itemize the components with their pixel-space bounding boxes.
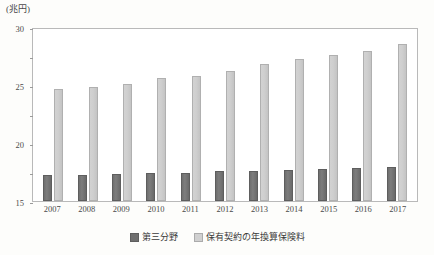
bar-group [173, 29, 207, 201]
x-axis-label: 2008 [70, 204, 105, 215]
x-axis-label: 2012 [208, 204, 243, 215]
bar[interactable] [387, 167, 396, 201]
bar[interactable] [89, 87, 98, 201]
bar-group [105, 29, 139, 201]
bar-group [380, 29, 414, 201]
bar-group [70, 29, 104, 201]
bar[interactable] [215, 171, 224, 201]
bar-group [36, 29, 70, 201]
bar[interactable] [112, 174, 121, 201]
bar[interactable] [157, 78, 166, 201]
y-axis-unit-label: (兆円) [6, 4, 30, 15]
bar[interactable] [192, 76, 201, 201]
chart-legend: 第三分野保有契約の年換算保険料 [0, 232, 434, 243]
bar[interactable] [329, 55, 338, 201]
y-axis-tick-label: 15 [16, 199, 25, 208]
bar[interactable] [146, 173, 155, 201]
x-axis-label: 2013 [242, 204, 277, 215]
x-axis-label: 2015 [311, 204, 346, 215]
bar-group [242, 29, 276, 201]
legend-item[interactable]: 第三分野 [130, 232, 178, 243]
legend-swatch-icon [194, 233, 203, 242]
bar[interactable] [78, 175, 87, 201]
x-axis-label: 2009 [104, 204, 139, 215]
bar[interactable] [352, 168, 361, 201]
bars-layer [33, 29, 417, 201]
legend-swatch-icon [130, 233, 139, 242]
bar[interactable] [123, 84, 132, 201]
x-axis-label: 2010 [139, 204, 174, 215]
y-axis-tick-label: 30 [16, 25, 25, 34]
bar-group [139, 29, 173, 201]
bar[interactable] [54, 89, 63, 201]
plot-area: 051015202530 [32, 28, 418, 202]
bar[interactable] [226, 71, 235, 202]
bar[interactable] [260, 64, 269, 201]
bar[interactable] [181, 173, 190, 201]
chart-container: (兆円) 051015202530 2007200820092010201120… [0, 0, 434, 255]
bar[interactable] [295, 59, 304, 201]
x-axis-label: 2011 [173, 204, 208, 215]
x-axis-label: 2017 [380, 204, 415, 215]
legend-label: 第三分野 [142, 232, 178, 243]
y-axis-tick-label: 20 [16, 141, 25, 150]
bar[interactable] [284, 170, 293, 201]
bar[interactable] [398, 44, 407, 201]
bar[interactable] [249, 171, 258, 201]
x-axis-label: 2014 [277, 204, 312, 215]
bar-group [311, 29, 345, 201]
bar-group [208, 29, 242, 201]
legend-label: 保有契約の年換算保険料 [206, 232, 305, 243]
x-axis-label: 2007 [35, 204, 70, 215]
x-axis-label: 2016 [346, 204, 381, 215]
bar[interactable] [318, 169, 327, 201]
y-axis-tick-label: 25 [16, 83, 25, 92]
bar-group [345, 29, 379, 201]
legend-item[interactable]: 保有契約の年換算保険料 [194, 232, 305, 243]
bar-group [277, 29, 311, 201]
bar[interactable] [43, 175, 52, 201]
x-axis-labels: 2007200820092010201120122013201420152016… [32, 204, 418, 215]
bar[interactable] [363, 51, 372, 201]
